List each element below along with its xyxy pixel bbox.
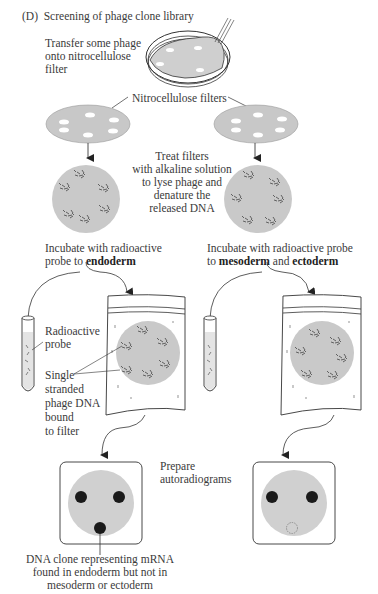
test-tube-left-icon xyxy=(22,316,34,391)
filters-label: Nitrocellulose filters xyxy=(132,92,227,105)
panel-heading: (D) Screening of phage clone library xyxy=(22,10,194,23)
positive-spot xyxy=(306,491,318,503)
petri-dish-icon xyxy=(146,18,234,87)
transfer-label: Transfer some phage onto nitrocellulose … xyxy=(45,37,141,76)
incubate-right-label: Incubate with radioactive probe to mesod… xyxy=(207,242,353,268)
hybridization-bag-left xyxy=(106,295,185,415)
diagram-artwork xyxy=(0,0,378,594)
nitrocellulose-filter-right xyxy=(214,105,298,143)
mesoderm-bold: mesoderm xyxy=(219,255,270,267)
ectoderm-bold: ectoderm xyxy=(292,255,338,267)
positive-spot xyxy=(75,491,87,503)
result-caption: DNA clone representing mRNA found in end… xyxy=(10,553,190,592)
autoradiogram-left xyxy=(60,462,142,555)
endoderm-bold: endoderm xyxy=(86,255,136,267)
panel-title: Screening of phage clone library xyxy=(44,10,194,22)
test-tube-right-icon xyxy=(204,316,216,391)
ssdna-label: Single stranded phage DNA bound to filte… xyxy=(45,368,100,438)
nitrocellulose-filter-left xyxy=(46,105,130,143)
autoradiogram-right xyxy=(253,462,335,544)
autoradiograms-label: Prepare autoradiograms xyxy=(160,460,232,486)
endoderm-specific-spot xyxy=(94,522,106,534)
lysed-filter-left xyxy=(52,165,120,233)
probe-label: Radioactive probe xyxy=(45,325,100,351)
treat-label: Treat filters with alkaline solution to … xyxy=(122,150,242,215)
positive-spot xyxy=(113,491,125,503)
incubate-left-label: Incubate with radioactive probe to endod… xyxy=(45,242,162,268)
positive-spot xyxy=(266,491,278,503)
panel-label: (D) xyxy=(22,10,38,22)
hybridization-bag-right xyxy=(281,295,361,415)
